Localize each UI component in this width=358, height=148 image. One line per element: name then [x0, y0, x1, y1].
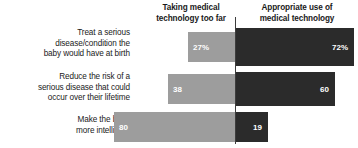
- category-label-line1: Treat a serious: [2, 28, 130, 39]
- bar-right-value-wrap: 72%: [236, 28, 354, 66]
- column-header-right-line1: Appropriate use of: [240, 3, 354, 14]
- category-label-line2: more intelligent: [2, 126, 130, 137]
- category-label-line3: occur over their lifetime: [2, 93, 130, 104]
- bar-left: 38: [168, 74, 235, 104]
- bar-right-value: 72%: [332, 43, 348, 52]
- diverging-bar-chart: Taking medical technology too far Approp…: [0, 0, 358, 148]
- category-label-line2: disease/condition the: [2, 39, 130, 50]
- bar-right-value: 19: [253, 123, 262, 132]
- bar-right-value-wrap: 19: [236, 112, 268, 142]
- bar-left-value: 80: [119, 123, 128, 132]
- category-label-line3: baby would have at birth: [2, 49, 130, 60]
- column-header-left-line2: technology too far: [148, 14, 234, 25]
- bar-right-value-wrap: 60: [236, 72, 335, 106]
- column-header-left-line1: Taking medical: [148, 3, 234, 14]
- bar-right: 72%: [236, 28, 354, 66]
- chart-row: Treat a serious disease/condition the ba…: [0, 28, 358, 66]
- bar-left-value-wrap: 27%: [188, 32, 235, 62]
- bar-right: 60: [236, 72, 335, 106]
- bar-right: 19: [236, 112, 268, 142]
- category-label-line1: Reduce the risk of a: [2, 72, 130, 83]
- chart-row: Make the baby more intelligent 80 19: [0, 112, 358, 142]
- bar-left-value-wrap: 80: [114, 112, 235, 142]
- category-label: Reduce the risk of a serious disease tha…: [2, 72, 130, 104]
- category-label-line2: serious disease that could: [2, 83, 130, 94]
- bar-right-value: 60: [320, 85, 329, 94]
- bar-left-value: 38: [173, 85, 182, 94]
- bar-left-value-wrap: 38: [168, 74, 235, 104]
- column-header-right: Appropriate use of medical technology: [240, 3, 354, 24]
- bar-left: 80: [114, 112, 235, 142]
- category-label: Make the baby more intelligent: [2, 115, 130, 136]
- column-header-left: Taking medical technology too far: [148, 3, 234, 24]
- category-label-line1: Make the baby: [2, 115, 130, 126]
- column-header-right-line2: medical technology: [240, 14, 354, 25]
- bar-left-value: 27%: [193, 43, 209, 52]
- category-label: Treat a serious disease/condition the ba…: [2, 28, 130, 60]
- chart-row: Reduce the risk of a serious disease tha…: [0, 72, 358, 106]
- bar-left: 27%: [188, 32, 235, 62]
